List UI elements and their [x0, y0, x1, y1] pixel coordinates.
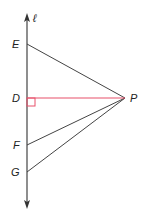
segment-GP: [27, 98, 125, 172]
geometry-diagram: ℓ E D F G P: [0, 0, 151, 215]
segment-FP: [27, 98, 125, 145]
segment-EP: [27, 44, 125, 98]
point-E-label: E: [12, 38, 20, 50]
right-angle-marker: [27, 98, 35, 106]
line-l-label: ℓ: [32, 12, 37, 24]
point-P-label: P: [130, 92, 138, 104]
point-F-label: F: [13, 139, 21, 151]
point-G-label: G: [11, 166, 20, 178]
point-D-label: D: [12, 92, 20, 104]
